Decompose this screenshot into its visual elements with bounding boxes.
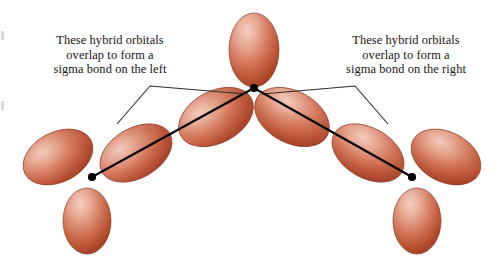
scan-speck-upper <box>1 31 4 40</box>
left-annotation-line-2: overlap to form a <box>26 48 194 63</box>
right-annotation-line-3: sigma bond on the right <box>322 62 490 77</box>
scan-speck-lower <box>1 101 4 110</box>
left-atom-orbitals <box>14 112 183 254</box>
center-orbital-lower-right <box>244 75 339 158</box>
center-orbital-up <box>229 13 279 87</box>
right-orbital-outer <box>402 118 491 196</box>
center-orbital-lower-left <box>168 75 263 158</box>
center-vertex-dot <box>250 84 258 92</box>
left-annotation-line-1: These hybrid orbitals <box>26 33 194 48</box>
left-orbital-down <box>63 188 111 254</box>
right-annotation-line-1: These hybrid orbitals <box>322 33 490 48</box>
right-annotation: These hybrid orbitals overlap to form a … <box>322 33 490 77</box>
left-annotation-line-3: sigma bond on the left <box>26 62 194 77</box>
figure-canvas: These hybrid orbitals overlap to form a … <box>0 0 504 266</box>
left-orbital-outer <box>14 118 103 196</box>
right-atom-orbitals <box>322 112 491 254</box>
right-orbital-down <box>393 188 441 254</box>
left-annotation: These hybrid orbitals overlap to form a … <box>26 33 194 77</box>
left-vertex-dot <box>88 173 96 181</box>
right-annotation-line-2: overlap to form a <box>322 48 490 63</box>
right-vertex-dot <box>408 173 416 181</box>
